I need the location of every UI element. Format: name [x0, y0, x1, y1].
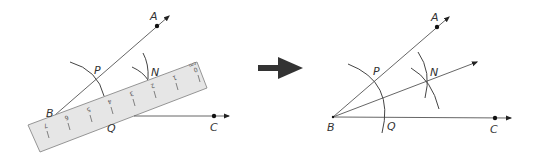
label-q: Q — [387, 120, 396, 133]
label-c: C — [210, 121, 218, 134]
ruler: 0 1 2 3 4 5 6 7 cm — [28, 61, 207, 152]
point-a — [435, 25, 439, 29]
label-a: A — [430, 11, 439, 24]
label-b: B — [327, 121, 335, 134]
arc-n-from-p — [418, 52, 427, 98]
ruler-body — [28, 62, 207, 152]
angle-bisector-diagram: 0 1 2 3 4 5 6 7 cm A B C P N Q — [0, 0, 538, 159]
point-c — [212, 114, 216, 118]
label-p: P — [94, 64, 101, 77]
label-p: P — [373, 65, 380, 78]
point-c — [493, 116, 497, 120]
point-a — [155, 24, 159, 28]
label-n: N — [430, 66, 438, 79]
right-panel: A B C P N Q — [327, 11, 511, 136]
right-arrow-icon — [258, 57, 303, 79]
label-b: B — [46, 107, 54, 120]
label-n: N — [151, 66, 159, 79]
ray-bisector-bn — [333, 62, 477, 117]
ray-bc — [333, 117, 511, 118]
label-c: C — [490, 123, 498, 136]
point-b — [332, 116, 334, 118]
left-panel: 0 1 2 3 4 5 6 7 cm A B C P N Q — [28, 10, 229, 152]
label-a: A — [149, 10, 158, 23]
label-q: Q — [107, 122, 116, 135]
arc-n-lower — [132, 67, 148, 80]
